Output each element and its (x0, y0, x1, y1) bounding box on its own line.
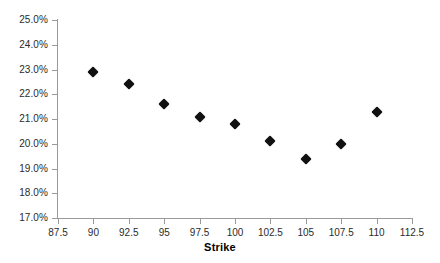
y-axis-tick-label: 21.0% (0, 114, 48, 124)
x-axis-tick (270, 219, 271, 224)
y-axis-tick-label: 17.0% (0, 213, 48, 223)
y-axis-tick-label: 22.0% (0, 89, 48, 99)
x-axis-tick-label: 112.5 (390, 227, 434, 238)
y-axis-tick (52, 119, 57, 120)
x-axis-tick (377, 219, 378, 224)
x-axis-tick (306, 219, 307, 224)
x-axis-tick (164, 219, 165, 224)
scatter-chart: 17.0%18.0%19.0%20.0%21.0%22.0%23.0%24.0%… (0, 0, 440, 263)
y-axis-tick (52, 70, 57, 71)
y-axis-tick (52, 94, 57, 95)
y-axis-tick-label: 20.0% (0, 139, 48, 149)
y-axis-tick (52, 45, 57, 46)
x-axis-tick (58, 219, 59, 224)
y-axis-line (57, 19, 58, 219)
y-axis-tick-label: 25.0% (0, 15, 48, 25)
y-axis-tick-label: 18.0% (0, 188, 48, 198)
y-axis-tick (52, 169, 57, 170)
y-axis-tick-label: 19.0% (0, 164, 48, 174)
y-axis-tick-label: 24.0% (0, 40, 48, 50)
y-axis-tick (52, 193, 57, 194)
x-axis-tick (200, 219, 201, 224)
x-axis-title: Strike (0, 241, 440, 253)
x-axis-tick (235, 219, 236, 224)
y-axis-tick (52, 144, 57, 145)
x-axis-tick (412, 219, 413, 224)
x-axis-tick (341, 219, 342, 224)
y-axis-tick (52, 218, 57, 219)
y-axis-tick (52, 20, 57, 21)
x-axis-tick (93, 219, 94, 224)
x-axis-tick (129, 219, 130, 224)
y-axis-tick-label: 23.0% (0, 65, 48, 75)
